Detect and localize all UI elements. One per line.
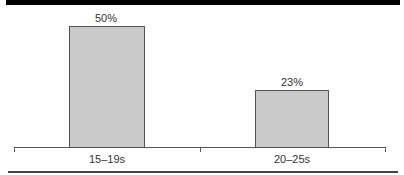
bar-15-19s	[69, 26, 145, 147]
bar-20-25s	[255, 90, 329, 147]
top-border	[6, 0, 400, 5]
axis-tick	[385, 147, 386, 152]
value-label: 50%	[66, 12, 146, 24]
axis-tick	[14, 147, 15, 152]
value-label: 23%	[252, 76, 332, 88]
category-label: 20–25s	[242, 153, 342, 165]
category-label: 15–19s	[57, 153, 157, 165]
bottom-rule	[8, 171, 398, 173]
axis-tick	[200, 147, 201, 152]
